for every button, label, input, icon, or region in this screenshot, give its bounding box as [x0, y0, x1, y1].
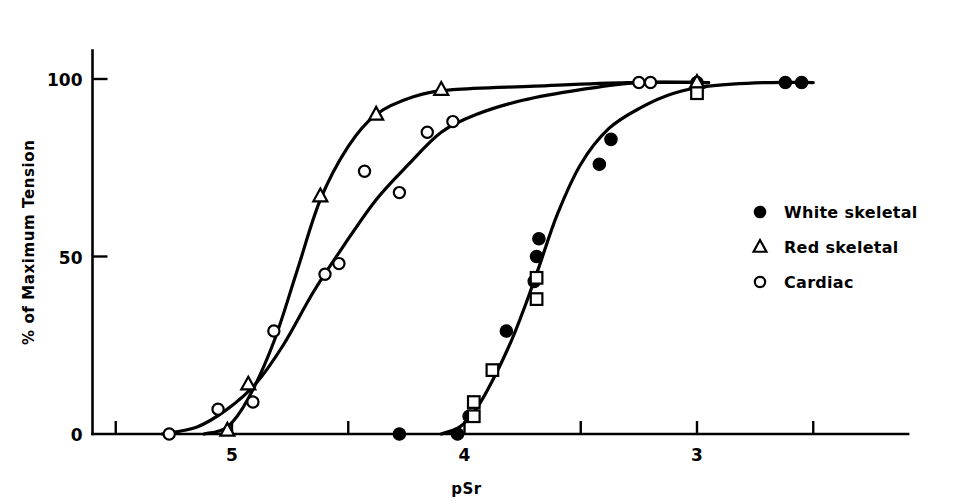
x-axis-ticks: 543	[116, 421, 814, 465]
data-point-0-11	[795, 76, 807, 88]
figure-container: 543 050100 pSr % of Maximum Tension Whit…	[0, 0, 960, 503]
y-tick-label-1: 50	[59, 248, 83, 268]
y-tick-label-0: 0	[71, 425, 83, 445]
data-point-2-5	[333, 258, 344, 269]
legend-marker-2	[755, 277, 765, 287]
x-tick-label-1: 5	[226, 445, 238, 465]
data-point-0-0	[393, 428, 405, 440]
legend-label-2: Cardiac	[784, 273, 854, 292]
chart-canvas: 543 050100 pSr % of Maximum Tension Whit…	[0, 0, 960, 503]
x-tick-label-3: 4	[459, 445, 471, 465]
data-point-1-1	[241, 377, 255, 390]
legend-label-1: Red skeletal	[784, 238, 899, 257]
legend-marker-0	[754, 206, 765, 217]
data-point-3-4	[531, 293, 543, 305]
data-point-3-1	[468, 410, 480, 422]
red-skeletal-curve	[204, 82, 709, 434]
data-point-1-3	[369, 107, 383, 120]
data-point-2-3	[268, 325, 279, 336]
data-point-0-8	[605, 133, 617, 145]
y-axis-title: % of Maximum Tension	[20, 140, 38, 345]
data-point-3-5	[691, 87, 703, 99]
data-point-0-1	[451, 428, 463, 440]
data-point-3-2	[487, 364, 499, 376]
data-point-2-11	[645, 77, 656, 88]
data-point-0-5	[530, 250, 542, 262]
white-skeletal-curve	[441, 82, 813, 434]
data-point-2-2	[247, 396, 258, 407]
data-point-0-3	[500, 325, 512, 337]
data-point-3-3	[531, 272, 543, 284]
series-white-skeletal-squares	[468, 87, 703, 422]
series-white-skeletal	[393, 76, 808, 440]
data-curves	[162, 82, 813, 434]
data-point-2-9	[447, 116, 458, 127]
x-axis-title: pSr	[451, 480, 482, 498]
legend: White skeletalRed skeletalCardiac	[754, 203, 918, 292]
y-tick-label-2: 100	[47, 70, 83, 90]
data-point-2-8	[422, 127, 433, 138]
data-point-0-10	[779, 76, 791, 88]
data-point-1-4	[434, 82, 448, 95]
series-cardiac	[164, 77, 656, 440]
data-point-2-0	[164, 428, 175, 439]
data-point-0-7	[593, 158, 605, 170]
data-point-2-7	[394, 187, 405, 198]
y-axis-ticks: 050100	[47, 70, 108, 445]
legend-marker-1	[754, 240, 767, 252]
data-point-2-10	[633, 77, 644, 88]
cardiac-curve	[162, 82, 708, 434]
data-point-3-0	[468, 396, 480, 408]
legend-label-0: White skeletal	[784, 203, 918, 222]
data-point-2-4	[319, 269, 330, 280]
series-red-skeletal	[220, 75, 704, 436]
data-point-0-6	[533, 233, 545, 245]
x-tick-label-5: 3	[691, 445, 703, 465]
data-point-2-6	[359, 166, 370, 177]
data-point-2-1	[212, 404, 223, 415]
data-markers	[164, 75, 808, 440]
